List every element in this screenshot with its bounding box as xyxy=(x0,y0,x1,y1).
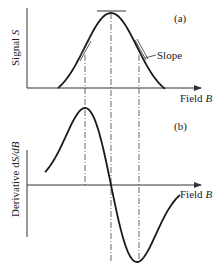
slope-label: Slope xyxy=(157,49,182,61)
panel-a-tag: (a) xyxy=(174,12,187,25)
slope-tangent-right xyxy=(135,40,146,60)
signal-curve xyxy=(58,13,165,89)
panel-b-xlabel: Field B xyxy=(180,188,212,200)
slope-tangent-left xyxy=(78,40,89,60)
panel-a: Slope (a) Field B Signal S xyxy=(9,8,212,104)
panel-a-ylabel: Signal S xyxy=(9,29,21,66)
panel-b-tag: (b) xyxy=(174,120,187,133)
panel-b-ylabel: Derivative dS/dB xyxy=(9,141,21,217)
epr-diagram: Slope (a) Field B Signal S (b) Field B D… xyxy=(0,0,216,267)
panel-a-xlabel: Field B xyxy=(180,92,212,104)
